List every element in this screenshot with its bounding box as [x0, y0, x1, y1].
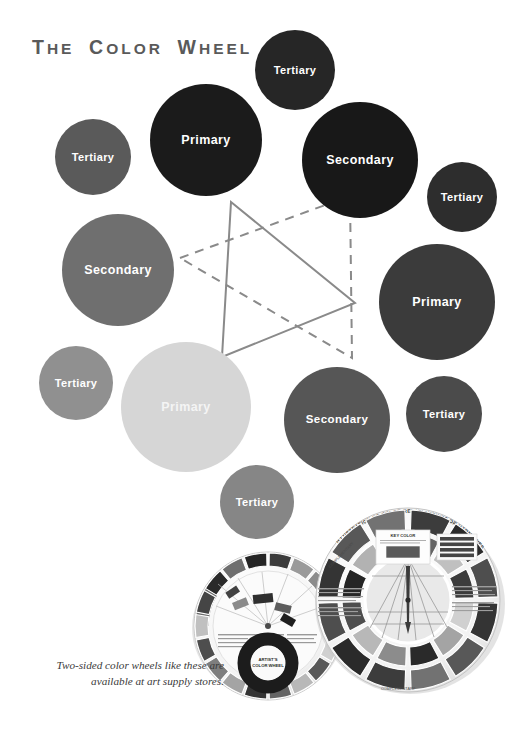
color-bubble-label: Primary — [412, 296, 461, 309]
color-bubble-primary-8[interactable]: Primary — [121, 342, 251, 472]
color-bubble-label: Tertiary — [72, 152, 115, 163]
color-bubble-tertiary-4[interactable]: Tertiary — [427, 162, 497, 232]
color-bubble-primary-6[interactable]: Primary — [379, 244, 495, 360]
color-bubble-label: Secondary — [84, 264, 152, 277]
color-bubble-tertiary-11[interactable]: Tertiary — [220, 465, 294, 539]
color-bubble-tertiary-7[interactable]: Tertiary — [39, 346, 113, 420]
color-bubble-label: Tertiary — [274, 65, 317, 76]
color-bubble-label: Secondary — [326, 154, 394, 167]
color-bubble-label: Tertiary — [236, 497, 279, 508]
color-bubble-primary-1[interactable]: Primary — [150, 84, 262, 196]
color-wheel-bubbles: TertiaryPrimaryTertiarySecondaryTertiary… — [0, 0, 520, 741]
color-bubble-label: Tertiary — [55, 378, 98, 389]
figure-caption: Two-sided color wheels like these are av… — [36, 657, 224, 689]
color-bubble-label: Primary — [181, 134, 230, 147]
color-wheel-page: THE COLOR WHEEL — [0, 0, 520, 741]
color-bubble-tertiary-0[interactable]: Tertiary — [255, 30, 335, 110]
color-bubble-tertiary-10[interactable]: Tertiary — [406, 376, 482, 452]
caption-line-2: available at art supply stores. — [36, 673, 224, 689]
color-bubble-label: Secondary — [306, 414, 368, 426]
color-bubble-tertiary-2[interactable]: Tertiary — [55, 119, 131, 195]
color-bubble-label: Primary — [161, 401, 210, 414]
color-bubble-secondary-5[interactable]: Secondary — [62, 214, 174, 326]
color-bubble-secondary-3[interactable]: Secondary — [302, 102, 418, 218]
color-bubble-label: Tertiary — [441, 192, 484, 203]
color-bubble-secondary-9[interactable]: Secondary — [284, 367, 390, 473]
caption-line-1: Two-sided color wheels like these are — [36, 657, 224, 673]
color-bubble-label: Tertiary — [423, 409, 466, 420]
